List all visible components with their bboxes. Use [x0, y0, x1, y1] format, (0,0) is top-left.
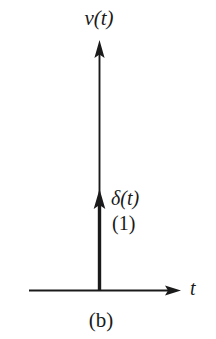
horizontal-axis-label: t	[190, 278, 196, 298]
vertical-axis-label: v(t)	[0, 8, 207, 29]
figure-caption: (b)	[0, 310, 209, 331]
impulse-label: δ(t)	[111, 188, 139, 208]
impulse-weight-label: (1)	[112, 213, 135, 233]
impulse-function-figure: v(t) t δ(t) (1) (b)	[0, 0, 216, 339]
figure-canvas	[0, 0, 216, 339]
